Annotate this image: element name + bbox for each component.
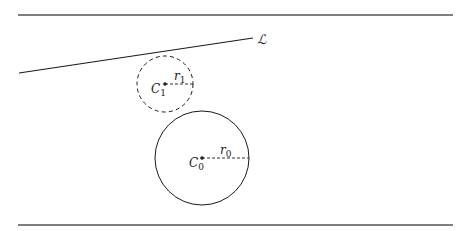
line-L (19, 38, 253, 73)
radius-r0-label: r0 (220, 143, 232, 159)
center-C1-dot (163, 82, 167, 86)
center-C0-dot (200, 156, 204, 160)
line-L-label: ℒ (257, 32, 267, 47)
diagram-canvas: ℒ r1 C1 r0 C0 (0, 0, 471, 231)
radius-r1-label: r1 (174, 69, 185, 85)
diagram-svg: ℒ r1 C1 r0 C0 (0, 0, 471, 231)
